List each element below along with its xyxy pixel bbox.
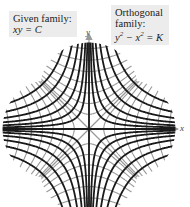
x-axis-label: x: [180, 123, 184, 133]
curve: [0, 0, 9, 207]
curve: [170, 0, 190, 207]
curve: [90, 131, 189, 207]
orthogonal-family-label: Orthogonal family: y2 − x2 = K: [111, 5, 169, 45]
given-family-equation: xy = C: [13, 24, 73, 35]
orthogonal-family-title-1: Orthogonal: [115, 7, 165, 18]
curve: [90, 144, 189, 207]
given-family-label: Given family: xy = C: [9, 11, 77, 37]
given-family-title: Given family:: [13, 13, 73, 24]
orthogonal-family-title-2: family:: [115, 18, 165, 29]
curve: [0, 198, 189, 207]
orthogonal-family-equation: y2 − x2 = K: [115, 29, 165, 43]
curve: [182, 0, 189, 207]
y-axis-label: y: [86, 27, 90, 37]
